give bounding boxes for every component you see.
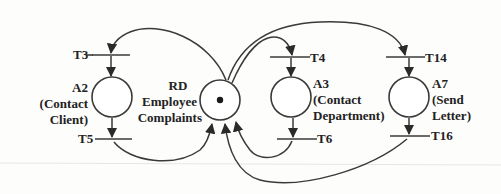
label-a7-sub2: Letter) bbox=[432, 108, 471, 123]
label-a7-sub1: (Send bbox=[432, 92, 465, 107]
label-a3-sub2: Department) bbox=[313, 108, 384, 123]
label-a7: A7 bbox=[432, 76, 448, 91]
arc-t5-rd bbox=[114, 124, 212, 161]
petri-net-diagram: T3 T5 T4 T6 T14 T16 A2 (Contact Client) … bbox=[0, 0, 501, 194]
scan-line bbox=[0, 163, 501, 165]
label-a2-sub1: (Contact bbox=[40, 96, 89, 111]
label-t5: T5 bbox=[78, 131, 94, 146]
label-t16: T16 bbox=[431, 128, 453, 143]
label-t3: T3 bbox=[73, 47, 89, 62]
label-rd: RD bbox=[169, 78, 188, 93]
label-t6: T6 bbox=[317, 131, 333, 146]
token-dot bbox=[217, 97, 223, 103]
label-a2-sub2: Client) bbox=[50, 112, 88, 127]
place-a2 bbox=[92, 77, 132, 117]
arc-rd-t4 bbox=[232, 37, 292, 83]
label-a3-sub1: (Contact bbox=[313, 92, 362, 107]
place-a3 bbox=[271, 77, 311, 117]
label-rd-sub1: Employee bbox=[142, 94, 197, 109]
label-a2: A2 bbox=[72, 80, 88, 95]
label-t4: T4 bbox=[310, 50, 326, 65]
label-rd-sub2: Complaints bbox=[138, 110, 202, 125]
label-t14: T14 bbox=[425, 50, 447, 65]
label-a3: A3 bbox=[313, 76, 329, 91]
place-a7 bbox=[389, 77, 429, 117]
